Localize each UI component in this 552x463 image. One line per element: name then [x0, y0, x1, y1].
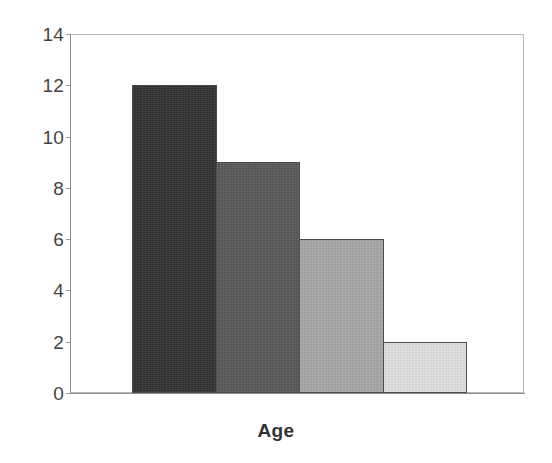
bar	[132, 85, 217, 393]
bar-texture	[300, 240, 383, 392]
bar	[216, 162, 301, 393]
bar-series	[0, 0, 552, 463]
bar	[299, 239, 384, 393]
x-axis-label: Age	[0, 420, 552, 442]
bar-texture	[133, 86, 216, 392]
bar-chart: 02468101214 Age	[0, 0, 552, 463]
bar-texture	[384, 343, 467, 392]
bar-texture	[217, 163, 300, 392]
bar	[383, 342, 468, 393]
